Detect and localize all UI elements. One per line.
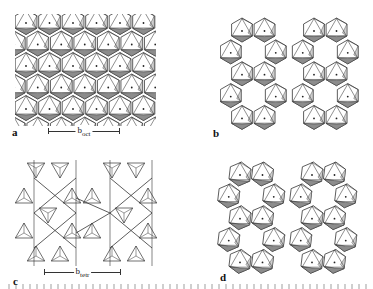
panel-label-a: a: [12, 127, 18, 138]
panel-d-distorted-sheet: [216, 160, 362, 274]
panel-label-b: b: [213, 128, 219, 139]
scale-bar-b-oct: boct: [48, 127, 120, 136]
dioctahedral-sheet-drawing: [220, 16, 362, 130]
cut-off-caption-line: [8, 284, 368, 289]
scale-bar-b-tetr: btetr: [44, 268, 121, 277]
panel-c-tetrahedral-sheet: [12, 158, 158, 266]
panel-b-dioctahedral-sheet: [220, 16, 362, 130]
tetrahedral-sheet-drawing: [12, 158, 158, 266]
panel-a-octahedral-sheet: [14, 14, 156, 126]
panel-label-d: d: [220, 272, 226, 283]
octahedral-sheet-drawing: [14, 14, 156, 126]
scale-subscript: oct: [82, 130, 91, 138]
scale-subscript: tetr: [80, 271, 89, 279]
distorted-sheet-drawing: [216, 160, 362, 274]
